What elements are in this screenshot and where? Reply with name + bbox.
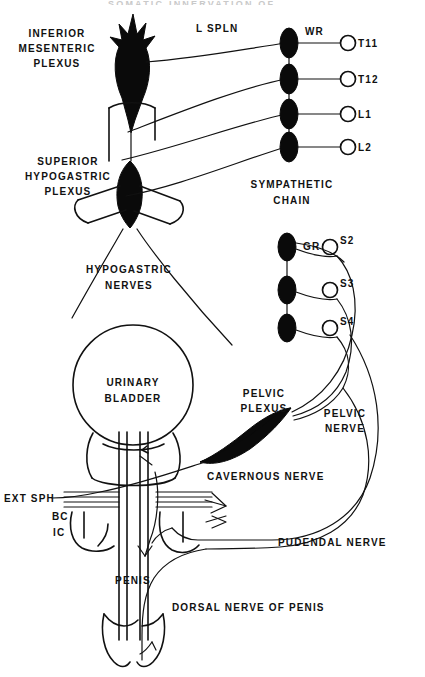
label-bulbocavernosus: BC: [52, 511, 69, 522]
segment-S3: S3: [278, 276, 355, 304]
cavernous-nerve-path: [52, 446, 205, 498]
glans-penis: [102, 614, 164, 667]
label-penis: PENIS: [115, 575, 151, 586]
label-external-sphincter: EXT SPH: [4, 493, 55, 504]
level-label-T12: T12: [358, 74, 379, 85]
label-cavernous-nerve: CAVERNOUS NERVE: [207, 471, 324, 482]
svg-text:NERVE: NERVE: [325, 423, 365, 434]
bc-ic-muscles-left: [70, 512, 114, 551]
segment-T12: T12: [280, 64, 379, 94]
svg-text:SYMPATHETIC: SYMPATHETIC: [251, 179, 334, 190]
label-superior-hypogastric-plexus: SUPERIOR HYPOGASTRIC PLEXUS: [25, 156, 111, 197]
svg-text:SUPERIOR: SUPERIOR: [37, 156, 98, 167]
bladder-neck-prostate: [87, 433, 180, 486]
pelvic-plexus-mass: [200, 408, 291, 463]
external-sphincter-right: [156, 492, 226, 513]
superior-hypogastric-plexus-mass: [117, 161, 142, 228]
label-pelvic-nerve: PELVIC NERVE: [324, 408, 366, 434]
bc-ic-muscles-right: [160, 512, 200, 552]
svg-text:HYPOGASTRIC: HYPOGASTRIC: [25, 171, 111, 182]
svg-text:NERVES: NERVES: [105, 280, 153, 291]
svg-text:PLEXUS: PLEXUS: [241, 403, 288, 414]
label-inferior-mesenteric-plexus: INFERIOR MESENTERIC PLEXUS: [18, 28, 95, 69]
segment-L1: L1: [280, 99, 372, 129]
svg-text:CHAIN: CHAIN: [273, 195, 310, 206]
label-lumbar-splanchnic: L SPLN: [196, 23, 238, 34]
level-label-L1: L1: [358, 109, 372, 120]
segment-T11: T11: [280, 28, 378, 58]
svg-text:BLADDER: BLADDER: [105, 393, 162, 404]
label-dorsal-nerve-of-penis: DORSAL NERVE OF PENIS: [172, 602, 325, 613]
anatomical-diagram: T11 T12 L1 L2: [0, 0, 425, 677]
label-ischiocavernosus: IC: [53, 527, 65, 538]
label-pudendal-nerve: PUDENDAL NERVE: [278, 537, 387, 548]
inferior-mesenteric-plexus-mass: [110, 14, 155, 161]
segment-S4: S4: [278, 314, 355, 342]
level-label-T11: T11: [358, 38, 378, 49]
svg-text:PLEXUS: PLEXUS: [34, 58, 81, 69]
svg-text:PELVIC: PELVIC: [243, 388, 285, 399]
label-white-ramus: WR: [305, 26, 324, 37]
svg-text:INFERIOR: INFERIOR: [29, 28, 86, 39]
label-gray-ramus: GR: [303, 241, 320, 252]
label-sympathetic-chain: SYMPATHETIC CHAIN: [251, 179, 334, 206]
svg-text:MESENTERIC: MESENTERIC: [18, 43, 95, 54]
svg-text:HYPOGASTRIC: HYPOGASTRIC: [86, 264, 172, 275]
thoracolumbar-segments: T11 T12 L1 L2: [280, 28, 379, 162]
svg-text:PELVIC: PELVIC: [324, 408, 366, 419]
svg-text:PLEXUS: PLEXUS: [45, 186, 92, 197]
label-pelvic-plexus: PELVIC PLEXUS: [241, 388, 288, 414]
level-label-L2: L2: [358, 142, 372, 153]
segment-L2: L2: [280, 132, 372, 162]
label-hypogastric-nerves: HYPOGASTRIC NERVES: [86, 264, 172, 291]
svg-text:URINARY: URINARY: [106, 377, 159, 388]
level-label-S2: S2: [340, 235, 355, 246]
label-urinary-bladder: URINARY BLADDER: [105, 377, 162, 404]
